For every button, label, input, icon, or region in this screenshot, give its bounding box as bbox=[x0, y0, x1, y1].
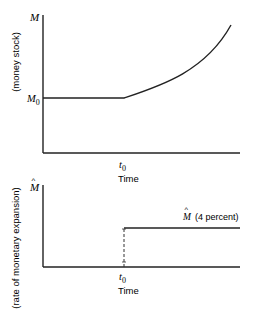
money-stock-line bbox=[43, 25, 231, 98]
series-label-text: (4 percent) bbox=[195, 212, 239, 222]
top-chart: M (money stock) M0 t0 Time bbox=[10, 11, 240, 184]
bottom-x-label: Time bbox=[118, 285, 139, 296]
bottom-y-label: (rate of monetary expansion) bbox=[10, 187, 21, 308]
m0-label: M0 bbox=[26, 93, 40, 107]
bottom-chart: M ^ (rate of monetary expansion) M ^ (4 … bbox=[10, 176, 240, 309]
top-t0-label: t0 bbox=[119, 159, 126, 173]
top-x-label: Time bbox=[118, 173, 139, 184]
money-growth-figure: M (money stock) M0 t0 Time M ^ (rate of … bbox=[0, 0, 258, 310]
hat-accent-icon: ^ bbox=[32, 176, 36, 185]
top-y-label: (money stock) bbox=[10, 32, 21, 92]
top-y-symbol: M bbox=[29, 11, 40, 23]
bottom-t0-label: t0 bbox=[119, 271, 126, 285]
series-hat-icon: ^ bbox=[185, 205, 189, 214]
